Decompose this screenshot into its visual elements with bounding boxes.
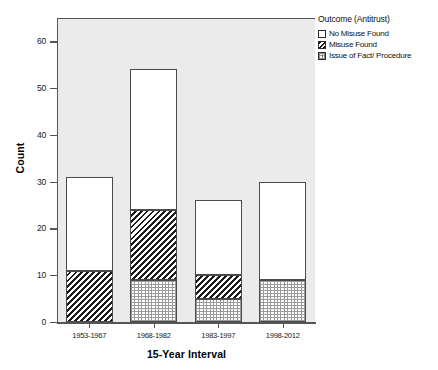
x-tick-1968-1982 bbox=[154, 322, 155, 328]
x-tick-label-1953-1967: 1953-1967 bbox=[54, 331, 124, 340]
bar-segment-1953-1967-no-misuse bbox=[66, 177, 113, 271]
x-tick-1998-2012 bbox=[283, 322, 284, 328]
bar-segment-1968-1982-misuse bbox=[130, 210, 177, 280]
y-tick-20 bbox=[50, 228, 57, 229]
legend-label-misuse: Misuse Found bbox=[329, 40, 377, 49]
legend-title: Outcome (Antitrust) bbox=[318, 14, 438, 24]
legend: Outcome (Antitrust) No Misuse FoundMisus… bbox=[318, 14, 438, 62]
bar-1953-1967 bbox=[66, 18, 113, 322]
x-axis-line bbox=[57, 322, 316, 324]
x-tick-label-1968-1982: 1968-1982 bbox=[119, 331, 189, 340]
bar-segment-1968-1982-issue bbox=[130, 280, 177, 322]
y-tick-label-20: 20 bbox=[6, 223, 46, 233]
x-axis-title: 15-Year Interval bbox=[57, 348, 316, 360]
bar-segment-1953-1967-misuse bbox=[66, 271, 113, 322]
legend-item-misuse: Misuse Found bbox=[318, 40, 438, 49]
y-tick-50 bbox=[50, 88, 57, 89]
y-axis-title: Count bbox=[14, 118, 26, 198]
y-tick-label-40: 40 bbox=[6, 130, 46, 140]
legend-label-no-misuse: No Misuse Found bbox=[329, 29, 389, 38]
legend-swatch-misuse bbox=[318, 41, 326, 49]
bar-segment-1998-2012-issue bbox=[259, 280, 306, 322]
bar-segment-1983-1997-no-misuse bbox=[195, 200, 242, 275]
y-tick-label-30: 30 bbox=[6, 177, 46, 187]
y-tick-label-10: 10 bbox=[6, 270, 46, 280]
bar-1983-1997 bbox=[195, 18, 242, 322]
x-tick-1953-1967 bbox=[89, 322, 90, 328]
bar-segment-1998-2012-no-misuse bbox=[259, 182, 306, 280]
y-tick-10 bbox=[50, 275, 57, 276]
bar-segment-1983-1997-issue bbox=[195, 299, 242, 322]
bar-1998-2012 bbox=[259, 18, 306, 322]
y-tick-label-0: 0 bbox=[6, 317, 46, 327]
bar-1968-1982 bbox=[130, 18, 177, 322]
y-tick-label-60: 60 bbox=[6, 36, 46, 46]
legend-item-no-misuse: No Misuse Found bbox=[318, 29, 438, 38]
y-tick-0 bbox=[50, 322, 57, 323]
x-tick-label-1983-1997: 1983-1997 bbox=[183, 331, 253, 340]
legend-item-issue: Issue of Fact/ Procedure bbox=[318, 51, 438, 60]
legend-items: No Misuse FoundMisuse FoundIssue of Fact… bbox=[318, 29, 438, 60]
legend-label-issue: Issue of Fact/ Procedure bbox=[329, 51, 411, 60]
y-tick-30 bbox=[50, 182, 57, 183]
bar-segment-1983-1997-misuse bbox=[195, 275, 242, 298]
legend-swatch-no-misuse bbox=[318, 30, 326, 38]
x-tick-label-1998-2012: 1998-2012 bbox=[248, 331, 318, 340]
bar-segment-1968-1982-no-misuse bbox=[130, 69, 177, 209]
y-tick-label-50: 50 bbox=[6, 83, 46, 93]
bar-chart: 0102030405060 1953-19671968-19821983-199… bbox=[0, 0, 438, 370]
y-tick-60 bbox=[50, 41, 57, 42]
legend-swatch-issue bbox=[318, 52, 326, 60]
x-tick-1983-1997 bbox=[218, 322, 219, 328]
y-tick-40 bbox=[50, 135, 57, 136]
